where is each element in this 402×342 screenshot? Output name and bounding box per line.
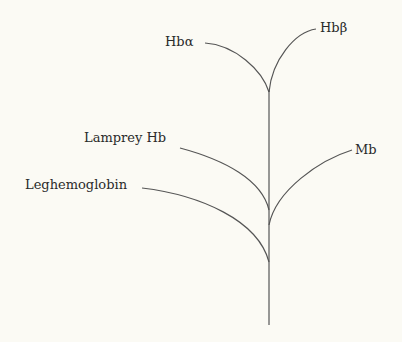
- leaf-label-hbb: Hbβ: [320, 21, 347, 34]
- branch-mb: [269, 150, 352, 225]
- leaf-label-leghemoglobin: Leghemoglobin: [25, 178, 127, 191]
- branch-leghemoglobin: [142, 188, 269, 262]
- leaf-label-hba: Hbα: [165, 35, 193, 48]
- phylogenetic-tree: [0, 0, 402, 342]
- branch-lamprey: [180, 148, 269, 210]
- leaf-label-lamprey-hb: Lamprey Hb: [84, 131, 166, 144]
- branch-hba: [205, 43, 269, 92]
- branch-hbb: [269, 29, 316, 92]
- leaf-label-mb: Mb: [355, 143, 377, 156]
